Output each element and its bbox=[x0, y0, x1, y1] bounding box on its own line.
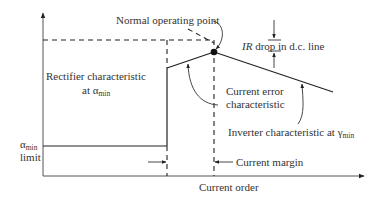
current-error-label-line2: characteristic bbox=[226, 98, 285, 110]
rectifier-alpha-sub: min bbox=[98, 89, 110, 98]
inverter-gamma-sub: min bbox=[343, 131, 355, 140]
alpha-min-limit-label-line2: limit bbox=[20, 151, 41, 163]
converter-characteristic-diagram: Normal operating point IR drop in d.c. l… bbox=[0, 0, 384, 203]
x-axis-label: Current order bbox=[199, 181, 259, 193]
inverter-label: Inverter characteristic at γmin bbox=[228, 126, 354, 140]
current-error-label-line1: Current error bbox=[226, 85, 284, 97]
normal-operating-point-label: Normal operating point bbox=[116, 14, 219, 26]
rectifier-at: at bbox=[82, 84, 93, 96]
rectifier-label-line1: Rectifier characteristic bbox=[46, 70, 146, 82]
alpha-min-limit-label-line1: αmin bbox=[20, 138, 38, 152]
ir-drop-text: drop in d.c. line bbox=[252, 40, 324, 52]
inverter-text: Inverter characteristic at bbox=[228, 126, 338, 138]
ir-drop-label: IR drop in d.c. line bbox=[241, 40, 325, 52]
normal-point-leader-dashed bbox=[188, 29, 214, 43]
inverter-leader bbox=[298, 84, 303, 124]
current-margin-label: Current margin bbox=[236, 156, 304, 168]
rectifier-label-line2: at αmin bbox=[82, 84, 110, 98]
current-error-characteristic-line bbox=[167, 52, 214, 68]
operating-point-marker bbox=[211, 49, 218, 56]
ir-drop-italic: IR bbox=[241, 40, 253, 52]
